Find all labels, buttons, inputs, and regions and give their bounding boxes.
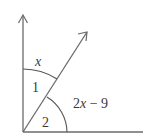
angle2-number-label: 2 — [42, 115, 49, 130]
angle-diagram: x 1 2 2x − 9 — [0, 0, 143, 136]
angle2-arc — [47, 97, 67, 132]
angle2-measure-label: 2x − 9 — [73, 96, 108, 111]
angle1-measure-label: x — [34, 54, 42, 69]
angle2-rest: − 9 — [86, 96, 108, 111]
angle1-arc — [23, 69, 57, 79]
angle1-number-label: 1 — [32, 80, 39, 95]
angle2-coef: 2 — [73, 96, 80, 111]
